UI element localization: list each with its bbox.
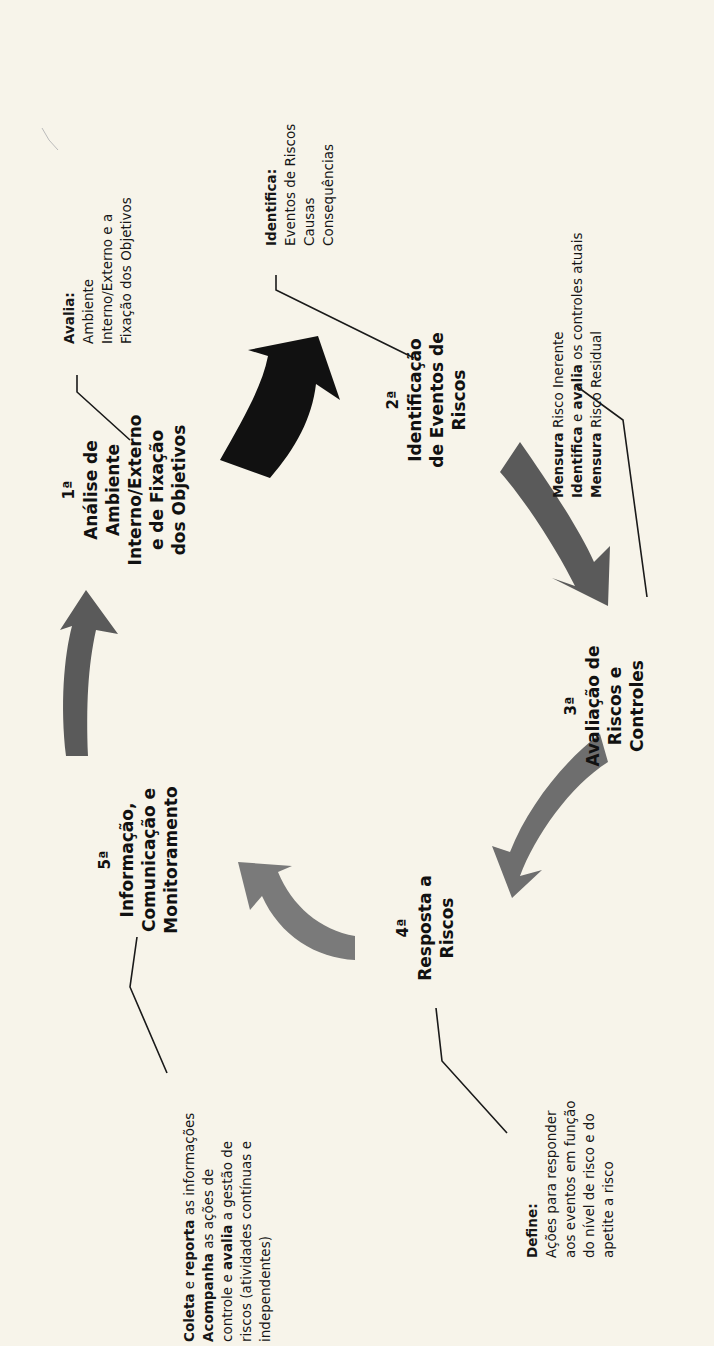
risk-management-cycle-diagram: 1ª Análise de Ambiente Interno/Externo e… [0, 0, 714, 1346]
step-4-note: Define: Ações para responder aos eventos… [523, 1101, 618, 1258]
arrow-step5-to-step1-icon [60, 590, 118, 756]
step-text-line: Riscos e [604, 645, 626, 766]
note-title: Identifica: [262, 124, 281, 246]
step-text-line: Monitoramento [160, 786, 182, 933]
step-1-label: 1ª Análise de Ambiente Interno/Externo e… [58, 415, 190, 566]
note-line: Ambiente [79, 197, 98, 344]
arrow-step1-to-step2-icon [220, 336, 340, 478]
step-text-line: Análise de [80, 415, 102, 566]
note-line: Coleta e reporta as informações [180, 1113, 199, 1342]
note-title: Define: [523, 1101, 542, 1258]
step-text-line: Riscos [448, 332, 470, 468]
arrow-step4-to-step5-icon [226, 862, 355, 966]
step-text-line: Interno/Externo [124, 415, 146, 566]
note-line: controle e avalia a gestão de [218, 1113, 237, 1342]
step-1-note: Avalia: Ambiente Interno/Externo e a Fix… [60, 197, 136, 344]
note-line: Ações para responder [542, 1101, 561, 1258]
step-text-line: Controles [626, 645, 648, 766]
step-text-line: Comunicação e [138, 786, 160, 933]
note-line: Consequências [319, 124, 338, 246]
note-line: Fixação dos Objetivos [117, 197, 136, 344]
document-page: 1ª Análise de Ambiente Interno/Externo e… [0, 0, 714, 1346]
step-4-label: 4ª Resposta a Riscos [392, 875, 458, 981]
connector-step4 [436, 1008, 507, 1133]
step-number: 4ª [392, 875, 414, 981]
note-line: riscos (atividades contínuas e [237, 1113, 256, 1342]
step-3-note: Mensura Risco Inerente Identifica e aval… [549, 233, 606, 498]
step-text-line: Ambiente [102, 415, 124, 566]
step-number: 2ª [382, 332, 404, 468]
step-text-line: dos Objetivos [168, 415, 190, 566]
step-text-line: e de Fixação [146, 415, 168, 566]
decorative-curve [42, 128, 58, 150]
step-3-label: 3ª Avaliação de Riscos e Controles [560, 645, 648, 766]
note-line: aos eventos em função [561, 1101, 580, 1258]
note-line: apetite a risco [599, 1101, 618, 1258]
note-line: Mensura Risco Inerente [549, 233, 568, 498]
step-text-line: de Eventos de [426, 332, 448, 468]
note-line: Mensura Risco Residual [587, 233, 606, 498]
step-2-note: Identifica: Eventos de Riscos Causas Con… [262, 124, 338, 246]
step-number: 5ª [94, 786, 116, 933]
step-text-line: Identificação [404, 332, 426, 468]
step-text-line: Resposta a [414, 875, 436, 981]
step-2-label: 2ª Identificação de Eventos de Riscos [382, 332, 470, 468]
note-line: independentes) [256, 1113, 275, 1342]
note-line: Causas [300, 124, 319, 246]
connector-step5 [130, 937, 167, 1073]
step-text-line: Avaliação de [582, 645, 604, 766]
note-line: Interno/Externo e a [98, 197, 117, 344]
step-text-line: Riscos [436, 875, 458, 981]
step-5-label: 5ª Informação, Comunicação e Monitoramen… [94, 786, 182, 933]
step-number: 1ª [58, 415, 80, 566]
step-5-note: Coleta e reporta as informações Acompanh… [180, 1113, 275, 1342]
step-number: 3ª [560, 645, 582, 766]
note-line: Eventos de Riscos [281, 124, 300, 246]
note-line: Identifica e avalia os controles atuais [568, 233, 587, 498]
note-title: Avalia: [60, 197, 79, 344]
step-text-line: Informação, [116, 786, 138, 933]
note-line: Acompanha as ações de [199, 1113, 218, 1342]
note-line: do nível de risco e do [580, 1101, 599, 1258]
